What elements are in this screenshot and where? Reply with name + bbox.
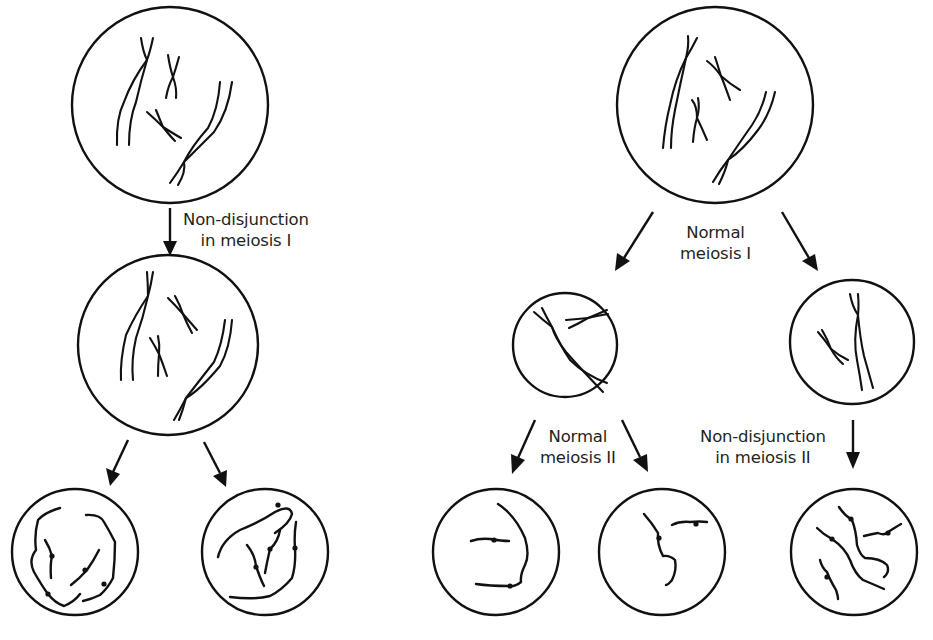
label-line: meiosis II bbox=[540, 447, 616, 468]
diagram-canvas bbox=[0, 0, 933, 640]
label-line: meiosis I bbox=[680, 243, 751, 264]
arrow-right-to-daughterB bbox=[782, 212, 818, 271]
left-parent-cell bbox=[72, 7, 268, 203]
label-line: Non-disjunction bbox=[183, 209, 309, 230]
left-gamete-2 bbox=[202, 489, 328, 615]
left-gamete-1 bbox=[12, 489, 138, 615]
label-nondisjunction-meiosis1: Non-disjunction in meiosis I bbox=[183, 209, 309, 251]
label-normal-meiosis1: Normal meiosis I bbox=[680, 222, 751, 264]
arrow-daughterA-to-gamete1 bbox=[511, 420, 535, 474]
label-line: Non-disjunction bbox=[700, 426, 826, 447]
right-parent-cell bbox=[617, 7, 813, 203]
arrow-left-to-gamete2 bbox=[204, 442, 227, 487]
meiosis-diagram: Non-disjunction in meiosis I Normal meio… bbox=[0, 0, 933, 640]
arrow-daughterB-to-gamete3 bbox=[846, 420, 860, 469]
right-gamete-1 bbox=[433, 489, 559, 615]
right-daughter-cell-b bbox=[790, 280, 914, 404]
label-line: in meiosis I bbox=[183, 230, 309, 251]
right-gamete-3 bbox=[791, 489, 917, 615]
left-daughter-cell bbox=[78, 255, 258, 435]
label-normal-meiosis2: Normal meiosis II bbox=[540, 426, 616, 468]
label-line: Normal bbox=[680, 222, 751, 243]
label-line: in meiosis II bbox=[700, 447, 826, 468]
arrow-right-to-daughterA bbox=[615, 212, 653, 271]
label-nondisjunction-meiosis2: Non-disjunction in meiosis II bbox=[700, 426, 826, 468]
right-daughter-cell-a bbox=[513, 293, 617, 397]
arrow-left-to-gamete1 bbox=[106, 440, 128, 486]
right-gamete-2 bbox=[599, 489, 725, 615]
arrow-left-meiosis1 bbox=[163, 208, 177, 256]
arrow-daughterA-to-gamete2 bbox=[622, 420, 648, 472]
label-line: Normal bbox=[540, 426, 616, 447]
